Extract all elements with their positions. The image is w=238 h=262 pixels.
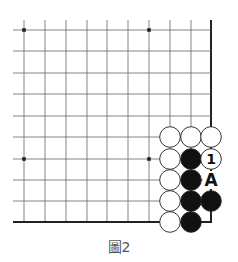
white-stone [201,127,222,148]
white-stone [160,149,181,170]
white-stone [160,170,181,191]
white-stone [160,212,181,233]
figure-caption: 圖2 [0,236,238,256]
star-points [22,28,151,161]
white-stone [181,127,202,148]
point-label: A [204,170,218,190]
white-stone [160,127,181,148]
star-point [22,157,26,161]
star-point [147,157,151,161]
black-stone [181,149,202,170]
black-stone [181,212,202,233]
white-stone [160,191,181,212]
star-point [22,28,26,32]
go-board: 1A [0,0,238,262]
star-point [147,28,151,32]
black-stone [201,191,222,212]
black-stone [181,191,202,212]
grid-lines [13,20,212,222]
stone-move-number: 1 [206,151,216,167]
black-stone [181,170,202,191]
